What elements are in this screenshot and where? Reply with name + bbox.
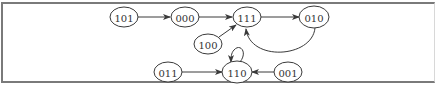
node-label-010: 010 [304, 13, 323, 24]
node-label-101: 101 [114, 13, 133, 24]
state-graph: 101 000 111 010 100 011 110 001 [0, 0, 437, 86]
node-label-011: 011 [158, 68, 177, 79]
edge-010-111 [246, 28, 315, 52]
node-label-000: 000 [175, 13, 194, 24]
edge-100-111 [219, 25, 236, 37]
node-label-001: 001 [278, 68, 297, 79]
node-label-110: 110 [227, 68, 246, 79]
edge-110-self-loop [231, 48, 243, 62]
node-label-100: 100 [198, 40, 217, 51]
node-label-111: 111 [237, 13, 256, 24]
